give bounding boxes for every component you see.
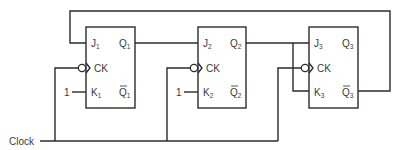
ff2-ck-label: CK <box>206 63 220 74</box>
inverter-bubble-icon <box>301 64 308 71</box>
ff3-ck-label: CK <box>317 63 331 74</box>
clock-to-ck3 <box>278 68 301 141</box>
ff1-k-const: 1 <box>64 87 70 98</box>
circuit-diagram: J1 Q1 CK K1 Q1 1 J2 Q2 CK K2 Q2 1 J3 Q3 … <box>0 0 400 150</box>
clock-to-ck2 <box>167 68 190 141</box>
clock-label: Clock <box>9 136 35 147</box>
inverter-bubble-icon <box>78 64 85 71</box>
clock-to-ck1 <box>55 68 78 141</box>
inverter-bubble-icon <box>190 64 197 71</box>
ff1-ck-label: CK <box>94 63 108 74</box>
ff2-k-const: 1 <box>176 87 182 98</box>
